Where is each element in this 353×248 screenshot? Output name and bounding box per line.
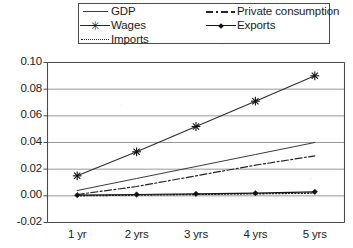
marker-asterisk bbox=[73, 171, 82, 180]
gridlines bbox=[48, 63, 345, 223]
marker-diamond bbox=[253, 190, 258, 195]
asterisk-marker-icon: ✳ bbox=[90, 20, 100, 32]
solid-diamond-key-icon bbox=[205, 19, 237, 32]
y-tick-label: -0.02 bbox=[2, 215, 42, 227]
axis-ticks bbox=[44, 63, 48, 223]
legend-item-imports: Imports bbox=[79, 33, 201, 46]
marker-asterisk bbox=[132, 147, 141, 156]
legend-item-wages: ✳ Wages bbox=[79, 19, 201, 32]
x-tick-label: 2 yrs bbox=[114, 228, 160, 240]
solid-asterisk-key-icon: ✳ bbox=[79, 19, 111, 32]
legend-column-left: GDP ✳ Wages Imports bbox=[79, 4, 201, 46]
marker-diamond bbox=[134, 192, 139, 197]
marker-asterisk bbox=[310, 71, 319, 80]
x-tick-label: 3 yrs bbox=[173, 228, 219, 240]
diamond-marker-icon bbox=[218, 23, 224, 29]
x-tick-label: 4 yrs bbox=[232, 228, 278, 240]
marker-asterisk bbox=[251, 97, 260, 106]
x-tick-label: 5 yrs bbox=[292, 228, 338, 240]
y-tick-label: 0.02 bbox=[2, 162, 42, 174]
y-tick-label: 0.08 bbox=[2, 82, 42, 94]
marker-diamond bbox=[312, 189, 317, 194]
legend-label-gdp: GDP bbox=[111, 5, 136, 18]
legend-label-imports: Imports bbox=[111, 33, 149, 46]
legend-item-private-consumption: Private consumption bbox=[205, 5, 331, 18]
legend-item-exports: Exports bbox=[205, 19, 331, 32]
dash-dot-line-key-icon bbox=[205, 5, 237, 18]
chart-legend: GDP ✳ Wages Imports Private consumption bbox=[78, 3, 330, 44]
x-tick-label: 1 yr bbox=[54, 228, 100, 240]
legend-label-exports: Exports bbox=[237, 19, 275, 32]
series-line-gdp bbox=[77, 143, 315, 191]
line-chart-figure: GDP ✳ Wages Imports Private consumption bbox=[0, 0, 353, 248]
y-tick-label: 0.10 bbox=[2, 55, 42, 67]
marker-diamond bbox=[75, 192, 80, 197]
legend-label-wages: Wages bbox=[111, 19, 146, 32]
y-tick-label: 0.04 bbox=[2, 135, 42, 147]
y-tick-label: 0.06 bbox=[2, 108, 42, 120]
legend-label-private-consumption: Private consumption bbox=[237, 5, 339, 18]
solid-thin-line-key-icon bbox=[79, 5, 111, 18]
data-series bbox=[73, 71, 319, 197]
marker-asterisk bbox=[192, 122, 201, 131]
legend-item-gdp: GDP bbox=[79, 5, 201, 18]
legend-column-right: Private consumption Exports bbox=[205, 4, 331, 32]
dotted-line-key-icon bbox=[79, 33, 111, 46]
y-tick-label: 0.00 bbox=[2, 188, 42, 200]
